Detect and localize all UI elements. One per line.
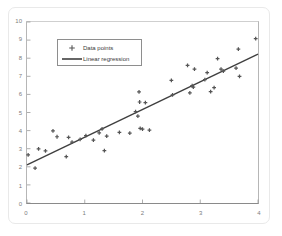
y-tick-label: 5	[6, 110, 22, 116]
legend-marker-icon	[61, 43, 83, 53]
chart-legend: Data points Linear regression	[57, 39, 142, 66]
x-tick-label: 1	[77, 210, 91, 216]
legend-line-icon	[61, 54, 83, 64]
y-tick-label: 6	[6, 91, 22, 97]
legend-item-linear-regression: Linear regression	[61, 53, 138, 64]
scatter-plot-figure: 012345678910 01234 Data points Linear r	[0, 0, 282, 236]
y-tick-label: 10	[6, 18, 22, 24]
y-tick-label: 2	[6, 164, 22, 170]
y-tick-label: 3	[6, 146, 22, 152]
x-tick-label: 4	[252, 210, 266, 216]
y-tick-label: 0	[6, 201, 22, 207]
x-tick-label: 0	[19, 210, 33, 216]
x-tick-label: 2	[136, 210, 150, 216]
x-tick-label: 3	[194, 210, 208, 216]
legend-item-data-points: Data points	[61, 42, 138, 53]
y-tick-label: 1	[6, 183, 22, 189]
y-tick-label: 4	[6, 128, 22, 134]
y-tick-label: 9	[6, 36, 22, 42]
legend-label-data-points: Data points	[83, 45, 113, 51]
y-tick-label: 7	[6, 73, 22, 79]
legend-label-linear-regression: Linear regression	[83, 56, 129, 62]
y-tick-label: 8	[6, 55, 22, 61]
